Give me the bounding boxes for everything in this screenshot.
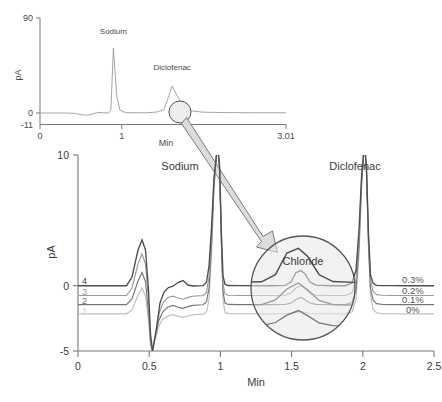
overview-xtick-label-0: 0 bbox=[37, 131, 42, 141]
overview-chart: 90 0 -11 0 1 3.01 pA Min Sodium Diclofen… bbox=[13, 13, 295, 148]
detail-trace-0pct bbox=[78, 150, 434, 351]
detail-trace-01pct bbox=[78, 150, 434, 351]
detail-x-axis-title: Min bbox=[247, 376, 265, 388]
detail-ytick-label-10: 10 bbox=[57, 149, 69, 161]
overview-y-axis-title: pA bbox=[13, 69, 23, 80]
overview-x-axis-title: Min bbox=[159, 138, 174, 148]
detail-series-label-0pct: 0% bbox=[406, 304, 420, 315]
detail-xtick-label-1: 1 bbox=[217, 360, 223, 372]
detail-xtick-label-25: 2.5 bbox=[427, 360, 442, 372]
detail-xtick-label-15: 1.5 bbox=[284, 360, 299, 372]
detail-xtick-label-05: 0.5 bbox=[142, 360, 157, 372]
detail-ytick-label-0: 0 bbox=[63, 280, 69, 292]
detail-series-label-03pct: 0.3% bbox=[402, 274, 424, 285]
detail-xtick-label-2: 2 bbox=[360, 360, 366, 372]
detail-y-axis-title: pA bbox=[45, 245, 57, 259]
overview-annotation-sodium: Sodium bbox=[100, 27, 127, 36]
detail-annotation-diclofenac: Diclofenac bbox=[329, 160, 381, 172]
chloride-magnifier: Chloride bbox=[227, 236, 365, 347]
overview-xtick-label-1: 1 bbox=[119, 131, 124, 141]
chromatogram-figure: 90 0 -11 0 1 3.01 pA Min Sodium Diclofen… bbox=[0, 0, 442, 402]
overview-xtick-label-3: 3.01 bbox=[277, 131, 295, 141]
detail-ytick-label-minus5: -5 bbox=[60, 345, 69, 357]
detail-annotation-sodium: Sodium bbox=[161, 160, 198, 172]
magnifier-annotation-chloride: Chloride bbox=[283, 255, 324, 267]
overview-trace bbox=[40, 48, 286, 115]
overview-ytick-label-90: 90 bbox=[23, 13, 33, 23]
detail-trace-02pct bbox=[78, 150, 434, 351]
detail-trace-number-2: 2 bbox=[82, 296, 87, 306]
callout-arrow bbox=[182, 118, 278, 253]
overview-ytick-label-0: 0 bbox=[28, 108, 33, 118]
detail-trace-03pct bbox=[78, 150, 434, 351]
detail-xtick-label-0: 0 bbox=[75, 360, 81, 372]
detail-trace-number-3: 3 bbox=[82, 287, 87, 297]
detail-chart: 10 0 -5 0 0.5 1 1.5 2 2.5 pA Min bbox=[45, 149, 441, 388]
overview-annotation-diclofenac: Diclofenac bbox=[154, 63, 191, 72]
overview-ytick-label-min: -11 bbox=[21, 120, 33, 130]
callout-arrow-shape bbox=[182, 118, 278, 253]
detail-trace-number-1: 1 bbox=[82, 306, 87, 316]
magnified-trace-0pct bbox=[227, 342, 365, 347]
detail-trace-number-4: 4 bbox=[82, 276, 87, 286]
